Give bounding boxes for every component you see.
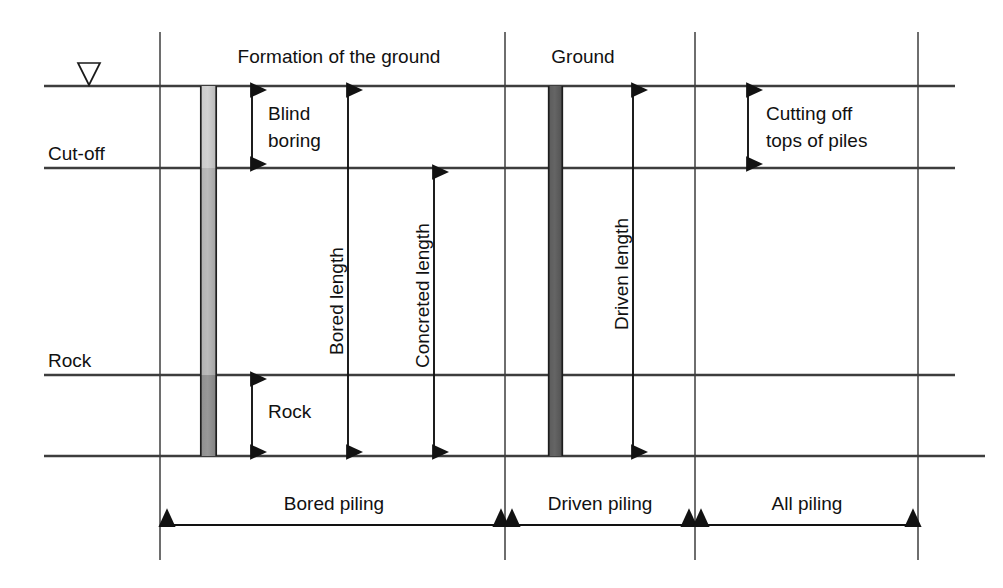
- cutting-off-label-line2: tops of piles: [766, 130, 867, 151]
- driven-pile-shaft: [548, 86, 563, 456]
- bored-pile: [200, 86, 217, 456]
- cut-off-label: Cut-off: [48, 143, 105, 164]
- ground-label: Ground: [551, 46, 614, 67]
- bored-pile-shaft-segment: [200, 168, 217, 375]
- bored-pile-rock-socket-segment: [200, 375, 217, 456]
- rock-label: Rock: [48, 350, 92, 371]
- diagram-canvas: Formation of the ground Ground Cut-off R…: [0, 0, 1003, 588]
- driven-piling-span-label: Driven piling: [548, 493, 653, 514]
- driven-pile: [548, 86, 563, 456]
- blind-boring-label-line2: boring: [268, 130, 321, 151]
- pile-length-diagram: Formation of the ground Ground Cut-off R…: [0, 0, 1003, 588]
- ground-level-triangle-icon: [78, 63, 100, 85]
- bored-piling-span-label: Bored piling: [284, 493, 384, 514]
- driven-length-label: Driven length: [611, 218, 632, 330]
- blind-boring-label-line1: Blind: [268, 103, 310, 124]
- bored-pile-blind-boring-segment: [200, 86, 217, 168]
- rock-socket-label: Rock: [268, 401, 312, 422]
- cutting-off-label-line1: Cutting off: [766, 103, 853, 124]
- concreted-length-label: Concreted length: [412, 223, 433, 368]
- formation-of-ground-label: Formation of the ground: [238, 46, 441, 67]
- all-piling-span-label: All piling: [772, 493, 843, 514]
- footer-span-dimensions: Bored piling Driven piling All piling: [167, 493, 913, 525]
- bored-length-label: Bored length: [326, 247, 347, 355]
